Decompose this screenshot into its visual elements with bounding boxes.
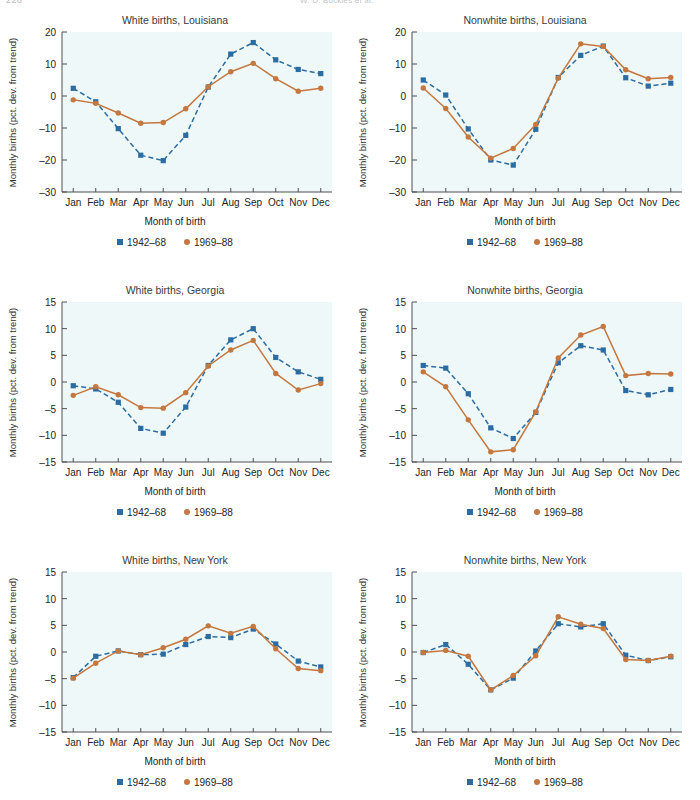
data-point xyxy=(251,61,256,66)
legend-item-1[interactable]: 1942–68 xyxy=(117,237,166,248)
chart-panel-nonwhite-georgia: Nonwhite births, GeorgiaMonthly births (… xyxy=(350,280,700,550)
legend-label: 1942–68 xyxy=(127,777,166,788)
data-point xyxy=(421,363,426,368)
series-line-2 xyxy=(73,63,321,123)
chart-panel-white-georgia: White births, GeorgiaMonthly births (pct… xyxy=(0,280,350,550)
series-canvas xyxy=(62,302,332,462)
data-point xyxy=(466,134,471,139)
legend-item-1[interactable]: 1942–68 xyxy=(467,237,516,248)
legend-square-icon xyxy=(117,779,123,785)
data-point xyxy=(228,631,233,636)
legend-item-2[interactable]: 1969–88 xyxy=(534,507,583,518)
plot-area xyxy=(412,572,682,732)
legend-label: 1969–88 xyxy=(194,777,233,788)
legend-label: 1942–68 xyxy=(477,237,516,248)
legend-item-2[interactable]: 1969–88 xyxy=(184,237,233,248)
y-axis-label: Monthly births (pct. dev. from trend) xyxy=(6,572,20,732)
data-point xyxy=(668,81,673,86)
data-point xyxy=(668,654,673,659)
y-axis-label-text: Monthly births (pct. dev. from trend) xyxy=(358,577,369,726)
data-point xyxy=(183,390,188,395)
data-point xyxy=(466,654,471,659)
legend-item-2[interactable]: 1969–88 xyxy=(534,237,583,248)
data-point xyxy=(71,393,76,398)
y-axis-label-text: Monthly births (pct. dev. from trend) xyxy=(8,307,19,456)
data-point xyxy=(93,101,98,106)
data-point xyxy=(93,384,98,389)
y-tick-label: –20 xyxy=(372,155,406,166)
y-tick-label: 5 xyxy=(22,350,56,361)
data-point xyxy=(138,153,143,158)
data-point xyxy=(183,642,188,647)
legend-label: 1942–68 xyxy=(127,237,166,248)
series-canvas xyxy=(412,32,682,192)
y-axis-label: Monthly births (pct. dev. from trend) xyxy=(356,32,370,192)
series-line-1 xyxy=(423,46,671,165)
legend-item-1[interactable]: 1942–68 xyxy=(117,777,166,788)
data-point xyxy=(138,652,143,657)
y-tick-label: –5 xyxy=(22,673,56,684)
legend-item-1[interactable]: 1942–68 xyxy=(467,777,516,788)
data-point xyxy=(421,650,426,655)
data-point xyxy=(206,623,211,628)
data-point xyxy=(443,642,448,647)
y-tick-label: –10 xyxy=(372,700,406,711)
y-tick-label: 10 xyxy=(372,59,406,70)
axis-lines xyxy=(62,302,332,462)
data-point xyxy=(668,75,673,80)
legend-item-1[interactable]: 1942–68 xyxy=(117,507,166,518)
data-point xyxy=(646,371,651,376)
legend-item-2[interactable]: 1969–88 xyxy=(534,777,583,788)
legend-item-2[interactable]: 1969–88 xyxy=(184,777,233,788)
y-tick-label: –5 xyxy=(372,403,406,414)
data-point xyxy=(228,51,233,56)
legend-item-2[interactable]: 1969–88 xyxy=(184,507,233,518)
data-point xyxy=(646,392,651,397)
legend-label: 1969–88 xyxy=(544,237,583,248)
data-point xyxy=(93,661,98,666)
data-point xyxy=(273,371,278,376)
data-point xyxy=(443,648,448,653)
data-point xyxy=(273,641,278,646)
data-point xyxy=(443,92,448,97)
data-point xyxy=(116,648,121,653)
data-point xyxy=(296,387,301,392)
chart-title: White births, Georgia xyxy=(0,284,350,296)
data-point xyxy=(228,69,233,74)
x-tick-label-dec: Dec xyxy=(656,467,686,478)
x-axis-title: Month of birth xyxy=(0,756,350,767)
data-point xyxy=(578,332,583,337)
data-point xyxy=(421,369,426,374)
data-point xyxy=(296,369,301,374)
chart-legend: 1942–681969–88 xyxy=(0,777,350,788)
series-canvas xyxy=(412,302,682,462)
series-line-1 xyxy=(73,43,321,161)
data-point xyxy=(183,133,188,138)
figure-panel-grid: White births, LouisianaMonthly births (p… xyxy=(0,10,700,800)
data-point xyxy=(161,120,166,125)
y-tick-label: –10 xyxy=(22,123,56,134)
data-point xyxy=(296,89,301,94)
legend-square-icon xyxy=(467,779,473,785)
data-point xyxy=(116,110,121,115)
chart-panel-white-louisiana: White births, LouisianaMonthly births (p… xyxy=(0,10,350,280)
legend-circle-icon xyxy=(534,509,540,515)
data-point xyxy=(646,76,651,81)
data-point xyxy=(93,654,98,659)
data-point xyxy=(183,404,188,409)
data-point xyxy=(511,673,516,678)
y-tick-label: –15 xyxy=(372,727,406,738)
plot-area xyxy=(412,32,682,192)
y-tick-label: –30 xyxy=(372,187,406,198)
series-line-2 xyxy=(423,44,671,158)
y-axis-label: Monthly births (pct. dev. from trend) xyxy=(6,302,20,462)
data-point xyxy=(533,653,538,658)
data-point xyxy=(161,652,166,657)
chart-title: White births, New York xyxy=(0,554,350,566)
legend-item-1[interactable]: 1942–68 xyxy=(467,507,516,518)
y-axis-label: Monthly births (pct. dev. from trend) xyxy=(356,302,370,462)
data-point xyxy=(623,373,628,378)
chart-title: Nonwhite births, Georgia xyxy=(350,284,700,296)
page-running-header: 226 W. D. Buckles et al. xyxy=(0,0,700,10)
data-point xyxy=(443,366,448,371)
